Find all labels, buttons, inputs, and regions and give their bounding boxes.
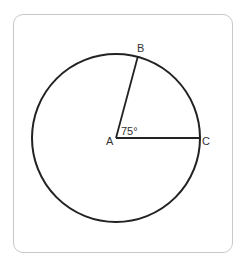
angle-label: 75° — [121, 125, 138, 137]
label-a: A — [106, 135, 114, 147]
label-b: B — [137, 42, 144, 54]
circle-diagram: A B C 75° — [0, 0, 247, 264]
label-c: C — [202, 135, 210, 147]
